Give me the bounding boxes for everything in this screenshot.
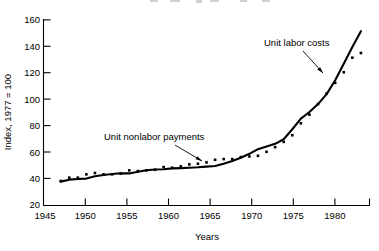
data-point xyxy=(85,173,88,176)
arrow-head xyxy=(196,156,202,161)
data-point xyxy=(137,170,140,173)
x-axis-title: Years xyxy=(195,231,219,242)
annotation-unit-labor-costs: Unit labor costs xyxy=(264,37,330,73)
annotation-label: Unit nonlabor payments xyxy=(104,131,205,142)
data-point xyxy=(308,113,311,116)
y-tick-label: 80 xyxy=(29,120,40,131)
x-tick-label: 1945 xyxy=(34,210,55,221)
data-point xyxy=(179,165,182,168)
data-point xyxy=(59,180,62,183)
data-point xyxy=(334,82,337,85)
data-point xyxy=(162,166,165,169)
data-point xyxy=(300,122,303,125)
data-point xyxy=(265,151,268,154)
data-point xyxy=(257,154,260,157)
y-tick-label: 140 xyxy=(24,41,40,52)
data-point xyxy=(128,169,131,172)
data-point xyxy=(188,163,191,166)
data-point xyxy=(291,134,294,137)
annotation-label: Unit labor costs xyxy=(264,37,330,48)
series-unit-nonlabor-payments xyxy=(59,52,362,183)
x-tick-label: 1970 xyxy=(241,210,262,221)
data-point xyxy=(145,169,148,172)
y-axis-title: Index, 1977 = 100 xyxy=(2,74,13,150)
y-tick-label: 160 xyxy=(24,14,40,25)
y-tick-label: 100 xyxy=(24,94,40,105)
x-tick-label: 1965 xyxy=(200,210,221,221)
y-tick-label: 20 xyxy=(29,199,40,210)
data-point xyxy=(154,168,157,171)
data-point xyxy=(77,176,80,179)
data-point xyxy=(214,158,217,161)
data-point xyxy=(248,155,251,158)
x-axis-tick-labels: 1945 1950 1955 1960 1965 1970 1975 1980 xyxy=(34,210,345,221)
y-tick-label: 60 xyxy=(29,147,40,158)
data-point xyxy=(325,92,328,95)
y-axis-ticks xyxy=(44,20,51,179)
data-point xyxy=(240,156,243,159)
data-point xyxy=(111,173,114,176)
annotation-unit-nonlabor-payments: Unit nonlabor payments xyxy=(104,131,205,161)
data-point xyxy=(351,56,354,59)
data-point xyxy=(317,103,320,106)
data-point xyxy=(342,71,345,74)
data-point xyxy=(171,166,174,169)
data-point xyxy=(205,161,208,164)
data-point xyxy=(119,172,122,175)
x-tick-label: 1975 xyxy=(283,210,304,221)
data-point xyxy=(282,141,285,144)
x-axis-ticks xyxy=(85,199,369,206)
x-tick-label: 1950 xyxy=(75,210,96,221)
data-point xyxy=(222,158,225,161)
data-point xyxy=(274,146,277,149)
x-tick-label: 1980 xyxy=(324,210,345,221)
x-tick-label: 1955 xyxy=(116,210,137,221)
data-point xyxy=(102,173,105,176)
data-point xyxy=(94,172,97,175)
series-unit-labor-costs xyxy=(61,31,361,181)
x-tick-label: 1960 xyxy=(158,210,179,221)
data-point xyxy=(197,162,200,165)
chart-title-sliver xyxy=(150,0,270,3)
y-axis-tick-labels: 160 140 120 100 80 60 40 20 xyxy=(24,14,40,210)
y-tick-label: 120 xyxy=(24,67,40,78)
data-point xyxy=(231,158,234,161)
data-point xyxy=(68,176,71,179)
chart-figure: 160 140 120 100 80 60 40 20 1945 1950 19… xyxy=(0,0,379,251)
index-line-chart: 160 140 120 100 80 60 40 20 1945 1950 19… xyxy=(0,0,379,251)
y-tick-label: 40 xyxy=(29,173,40,184)
data-point xyxy=(360,52,363,55)
